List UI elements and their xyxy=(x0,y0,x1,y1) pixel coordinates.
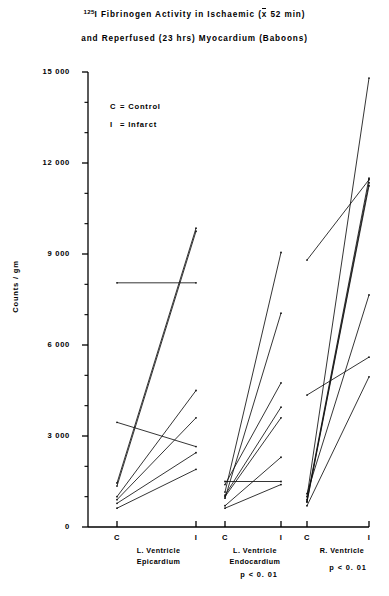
control-point xyxy=(306,259,308,261)
control-point xyxy=(306,501,308,503)
pair-line xyxy=(117,453,196,504)
x-axis-tick-label-control: C xyxy=(114,533,120,542)
infarct-point xyxy=(195,230,197,232)
group-pvalue-2: p < 0. 01 xyxy=(240,570,277,579)
control-point xyxy=(116,496,118,498)
plot-area xyxy=(0,0,389,596)
control-point xyxy=(224,491,226,493)
pair-line xyxy=(225,485,281,509)
pair-line xyxy=(307,377,369,506)
infarct-point xyxy=(368,356,370,358)
control-point xyxy=(116,502,118,504)
group-2-series xyxy=(224,252,282,510)
group-label-line-1: R. Ventricle xyxy=(320,546,365,557)
group-3-series xyxy=(306,77,370,507)
group-label-line-2: Epicardium xyxy=(137,557,181,568)
control-point xyxy=(306,493,308,495)
pair-line xyxy=(225,383,281,485)
pair-line xyxy=(307,78,369,497)
x-axis-tick-label-infarct: I xyxy=(280,533,283,542)
infarct-point xyxy=(280,417,282,419)
group-1-series xyxy=(116,227,197,509)
infarct-point xyxy=(195,390,197,392)
chart-figure: 125I Fibrinogen Activity in Ischaemic (x… xyxy=(0,0,389,596)
infarct-point xyxy=(368,179,370,181)
x-axis-tick-label-infarct: I xyxy=(195,533,198,542)
infarct-point xyxy=(195,417,197,419)
infarct-point xyxy=(280,481,282,483)
infarct-point xyxy=(195,227,197,229)
group-label-line-1: L. Ventricle xyxy=(137,546,181,557)
infarct-point xyxy=(195,468,197,470)
infarct-point xyxy=(280,382,282,384)
pair-line xyxy=(117,228,196,483)
pair-line xyxy=(117,469,196,508)
infarct-point xyxy=(280,252,282,254)
control-point xyxy=(224,484,226,486)
infarct-point xyxy=(368,376,370,378)
control-point xyxy=(116,499,118,501)
infarct-point xyxy=(368,294,370,296)
group-label-2: L. VentricleEndocardium xyxy=(230,546,281,567)
infarct-point xyxy=(280,312,282,314)
control-point xyxy=(224,507,226,509)
pair-line xyxy=(307,357,369,395)
data-series-layer xyxy=(116,77,370,509)
infarct-point xyxy=(368,182,370,184)
control-point xyxy=(306,505,308,507)
infarct-point xyxy=(280,456,282,458)
pair-line xyxy=(225,313,281,498)
control-point xyxy=(116,421,118,423)
group-pvalue-3: p < 0. 01 xyxy=(329,563,366,572)
control-point xyxy=(306,394,308,396)
group-label-1: L. VentricleEpicardium xyxy=(137,546,181,567)
infarct-point xyxy=(195,452,197,454)
control-point xyxy=(224,505,226,507)
x-axis-tick-label-infarct: I xyxy=(368,533,371,542)
pair-line xyxy=(307,186,369,502)
infarct-point xyxy=(368,185,370,187)
pair-line xyxy=(307,295,369,494)
x-axis-tick-label-control: C xyxy=(304,533,310,542)
infarct-point xyxy=(195,446,197,448)
control-point xyxy=(224,481,226,483)
infarct-point xyxy=(368,77,370,79)
group-label-3: R. Ventricle xyxy=(320,546,365,557)
control-point xyxy=(116,507,118,509)
pair-line xyxy=(307,180,369,260)
x-axis-tick-label-control: C xyxy=(222,533,228,542)
group-label-line-2: Endocardium xyxy=(230,557,281,568)
control-point xyxy=(116,485,118,487)
infarct-point xyxy=(280,406,282,408)
group-label-line-1: L. Ventricle xyxy=(230,546,281,557)
control-point xyxy=(224,496,226,498)
pair-line xyxy=(225,252,281,492)
infarct-point xyxy=(195,282,197,284)
pair-line xyxy=(117,418,196,500)
infarct-point xyxy=(280,484,282,486)
control-point xyxy=(116,282,118,284)
pair-line xyxy=(117,231,196,486)
